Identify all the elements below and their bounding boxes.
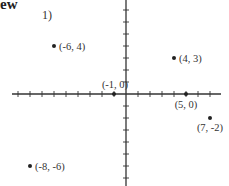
point-label: (7, -2) — [197, 122, 224, 134]
data-point — [28, 164, 32, 168]
point-label: (-8, -6) — [35, 161, 65, 173]
point-label: (-1, 0) — [102, 79, 129, 91]
data-point — [112, 92, 116, 96]
data-point — [52, 44, 56, 48]
coordinate-plane: (-6, 4)(4, 3)(-1, 0)(5, 0)(7, -2)(-8, -6… — [0, 0, 229, 186]
data-point — [208, 116, 212, 120]
point-label: (4, 3) — [179, 53, 202, 65]
data-point — [184, 92, 188, 96]
point-label: (-6, 4) — [59, 41, 86, 53]
point-label: (5, 0) — [175, 99, 198, 111]
data-point — [172, 56, 176, 60]
axes — [12, 0, 221, 186]
